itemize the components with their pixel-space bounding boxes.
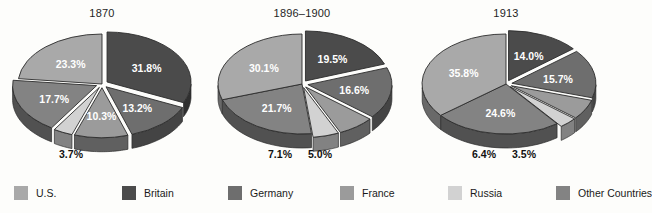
pie-panel-2: 1896–190019.5%16.6%21.7%30.1%7.1%5.0% (200, 0, 404, 175)
slice-value-label: 15.7% (543, 73, 573, 85)
charts-row: 187031.8%13.2%10.3%17.7%23.3%3.7%1896–19… (0, 0, 612, 175)
legend-item-uk[interactable]: Britain (122, 183, 174, 203)
slice-value-label-outside: 5.0% (300, 148, 340, 160)
pie-graphic: 31.8%13.2%10.3%17.7%23.3% (0, 22, 204, 175)
series-legend: U.S.BritainGermanyFranceRussiaOther Coun… (0, 178, 612, 208)
legend-item-other[interactable]: Other Countries (556, 183, 652, 203)
slice-value-label: 21.7% (262, 102, 292, 114)
pie-title: 1870 (0, 7, 204, 19)
legend-item-ru[interactable]: Russia (448, 183, 502, 203)
slice-value-label: 13.2% (122, 102, 152, 114)
legend-label: U.S. (36, 187, 56, 199)
slice-value-label: 16.6% (339, 84, 369, 96)
legend-swatch-other (556, 186, 570, 200)
legend-swatch-ru (448, 186, 462, 200)
slice-value-label: 17.7% (39, 93, 69, 105)
slice-value-label: 14.0% (514, 50, 544, 62)
slice-value-label: 35.8% (449, 67, 479, 79)
slice-value-label: 24.6% (486, 107, 516, 119)
legend-item-fr[interactable]: France (340, 183, 395, 203)
legend-label: Germany (250, 187, 293, 199)
slice-value-label-outside: 3.7% (51, 148, 91, 160)
legend-swatch-de (228, 186, 242, 200)
pie-title: 1913 (404, 7, 608, 19)
legend-swatch-uk (122, 186, 136, 200)
slice-value-label: 30.1% (249, 62, 279, 74)
pie-title: 1896–1900 (200, 7, 404, 19)
legend-item-de[interactable]: Germany (228, 183, 293, 203)
legend-label: Britain (144, 187, 174, 199)
slice-value-label-outside: 6.4% (464, 148, 504, 160)
legend-label: France (362, 187, 395, 199)
legend-label: Other Countries (578, 187, 652, 199)
slice-value-label-outside: 3.5% (504, 148, 544, 160)
legend-swatch-us (14, 186, 28, 200)
slice-value-label: 23.3% (56, 58, 86, 70)
slice-value-label: 31.8% (132, 62, 162, 74)
slice-value-label: 19.5% (318, 53, 348, 65)
pie-panel-3: 191314.0%15.7%24.6%35.8%6.4%3.5% (404, 0, 608, 175)
slice-value-label-outside: 7.1% (260, 148, 300, 160)
pie-panel-1: 187031.8%13.2%10.3%17.7%23.3%3.7% (0, 0, 204, 175)
slice-value-label: 10.3% (87, 110, 117, 122)
legend-item-us[interactable]: U.S. (14, 183, 56, 203)
legend-label: Russia (470, 187, 502, 199)
legend-swatch-fr (340, 186, 354, 200)
